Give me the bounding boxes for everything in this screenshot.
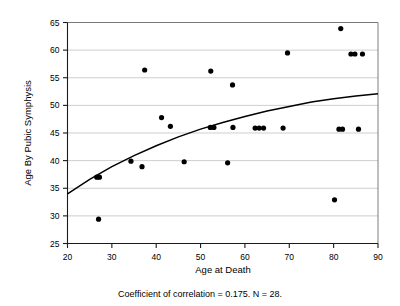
data-point	[168, 124, 173, 129]
x-tick-label: 70	[285, 252, 295, 262]
y-tick-label: 60	[50, 45, 60, 55]
data-point	[230, 82, 235, 87]
data-point	[360, 51, 365, 56]
scatter-plot-figure: 253035404550556065 2030405060708090 Age …	[0, 0, 400, 306]
data-point	[211, 125, 216, 130]
y-axis-title: Age By Pubic Symphysis	[22, 80, 33, 186]
chart-canvas: 253035404550556065 2030405060708090 Age …	[0, 0, 400, 306]
data-point	[182, 159, 187, 164]
data-point	[338, 26, 343, 31]
data-point	[280, 125, 285, 130]
data-point	[285, 50, 290, 55]
data-point	[352, 51, 357, 56]
x-axis-title: Age at Death	[195, 264, 250, 275]
data-point	[230, 125, 235, 130]
y-tick-label: 40	[50, 156, 60, 166]
x-tick-label: 30	[107, 252, 117, 262]
data-point	[208, 69, 213, 74]
x-tick-label: 90	[373, 252, 383, 262]
data-point	[356, 127, 361, 132]
y-tick-label: 30	[50, 211, 60, 221]
y-tick-label: 45	[50, 128, 60, 138]
y-tick-label: 65	[50, 18, 60, 28]
data-point	[96, 217, 101, 222]
data-point	[332, 197, 337, 202]
x-tick-label: 50	[196, 252, 206, 262]
x-tick-label: 60	[240, 252, 250, 262]
data-point	[97, 175, 102, 180]
x-tick-label: 40	[151, 252, 161, 262]
y-tick-label: 25	[50, 239, 60, 249]
x-tick-label: 80	[329, 252, 339, 262]
y-tick-label: 50	[50, 100, 60, 110]
y-tick-label: 35	[50, 183, 60, 193]
data-point	[257, 125, 262, 130]
data-point	[340, 127, 345, 132]
data-point	[225, 160, 230, 165]
x-tick-label: 20	[63, 252, 73, 262]
data-point	[139, 164, 144, 169]
y-tick-label: 55	[50, 73, 60, 83]
data-point	[128, 159, 133, 164]
data-point	[159, 115, 164, 120]
data-point	[261, 125, 266, 130]
y-tick-labels: 253035404550556065	[50, 18, 60, 249]
data-point	[142, 67, 147, 72]
chart-caption: Coefficient of correlation = 0.175. N = …	[118, 289, 282, 299]
